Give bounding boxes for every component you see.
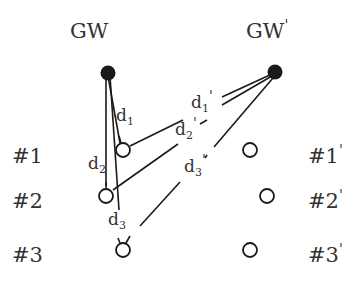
label-d2: d2: [88, 153, 106, 176]
label-d1: d1: [116, 105, 134, 128]
label-d3-prime: d3': [184, 152, 206, 179]
label-d2-prime: d2': [175, 115, 197, 142]
label-d1-prime: d1': [191, 88, 213, 115]
diagram-canvas: GW GW': [0, 0, 350, 284]
link-gwp-2-dash: [200, 120, 207, 124]
link-gwp-1a: [222, 74, 272, 97]
label-node-2: #2: [12, 189, 43, 213]
label-node-1-prime: #1': [308, 142, 343, 168]
node-3-prime: [243, 243, 257, 257]
label-node-1: #1: [12, 144, 43, 168]
label-node-3-prime: #3': [308, 241, 343, 267]
gw-prime-label: GW': [246, 17, 288, 43]
label-node-2-prime: #2': [308, 187, 343, 213]
label-d3: d3: [108, 209, 126, 232]
network-diagram: GW GW': [0, 0, 350, 284]
left-nodes: [99, 143, 130, 257]
node-2: [99, 189, 113, 203]
node-1: [116, 143, 130, 157]
tick-3a: [118, 238, 120, 243]
right-nodes: [243, 143, 274, 257]
gw-label: GW: [70, 19, 109, 43]
node-1-prime: [243, 143, 257, 157]
label-node-3: #3: [12, 243, 43, 267]
link-gwp-3-end: [140, 182, 180, 226]
tick-3b: [126, 236, 130, 243]
link-gwp-1b: [222, 76, 272, 105]
link-gwp-3a: [214, 78, 273, 147]
node-3: [116, 243, 130, 257]
node-2-prime: [260, 189, 274, 203]
